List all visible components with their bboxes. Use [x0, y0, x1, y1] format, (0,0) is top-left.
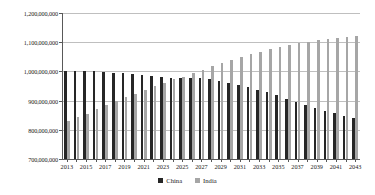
bar-india	[192, 73, 195, 159]
x-axis-tick-mark	[230, 159, 231, 162]
x-axis-tick-mark	[221, 159, 222, 162]
x-axis-tick-label: 2027	[195, 163, 207, 170]
bar-group	[129, 13, 139, 159]
x-axis-tick-mark	[336, 159, 337, 162]
bar-group	[225, 13, 235, 159]
x-axis-tick-mark	[96, 159, 97, 162]
x-axis-tick-label: 2043	[349, 163, 361, 170]
bar-india	[259, 52, 262, 159]
legend-item-china: China	[158, 177, 182, 184]
x-axis-tick-label: 2013	[61, 163, 73, 170]
x-axis-tick-mark	[269, 159, 270, 162]
legend-item-india: India	[195, 177, 217, 184]
x-axis-tick-mark	[192, 159, 193, 162]
bar-group	[139, 13, 149, 159]
x-axis-tick-mark	[201, 159, 202, 162]
x-axis-tick-mark	[67, 159, 68, 162]
bar-group	[62, 13, 72, 159]
x-axis-tick-mark	[278, 159, 279, 162]
bar-group	[110, 13, 120, 159]
bar-india	[163, 83, 166, 160]
bar-group	[283, 13, 293, 159]
bar-group	[177, 13, 187, 159]
bar-india	[67, 121, 70, 159]
x-axis-tick-mark	[307, 159, 308, 162]
bar-india	[288, 45, 291, 159]
bar-group	[216, 13, 226, 159]
x-axis-tick-mark	[124, 159, 125, 162]
bar-group	[254, 13, 264, 159]
bar-india	[144, 90, 147, 159]
x-axis-tick-mark	[288, 159, 289, 162]
bar-india	[86, 114, 89, 159]
x-axis-labels: 2013201520172019202120232025202720292031…	[62, 163, 360, 174]
x-axis-tick-mark	[144, 159, 145, 162]
x-axis-tick-label: 2017	[99, 163, 111, 170]
bar-india	[279, 47, 282, 159]
y-axis-tick-label: 800,000,000	[0, 126, 58, 133]
x-axis-tick-mark	[173, 159, 174, 162]
bar-india	[240, 57, 243, 159]
bar-group	[293, 13, 303, 159]
x-axis-tick-label: 2033	[253, 163, 265, 170]
bar-group	[235, 13, 245, 159]
bar-india	[346, 37, 349, 159]
legend-label-india: India	[203, 177, 217, 184]
bar-india	[317, 40, 320, 159]
bar-india	[327, 39, 330, 159]
bar-group	[302, 13, 312, 159]
bar-india	[202, 70, 205, 159]
x-axis-tick-mark	[346, 159, 347, 162]
bar-india	[269, 49, 272, 159]
x-axis-tick-label: 2037	[291, 163, 303, 170]
x-axis-tick-mark	[182, 159, 183, 162]
bar-group	[120, 13, 130, 159]
x-axis-tick-mark	[153, 159, 154, 162]
y-axis-tick-label: 900,000,000	[0, 97, 58, 104]
bar-group	[149, 13, 159, 159]
bar-india	[182, 77, 185, 159]
bar-india	[250, 54, 253, 159]
x-axis-tick-label: 2025	[176, 163, 188, 170]
x-axis-tick-label: 2039	[311, 163, 323, 170]
bar-group	[331, 13, 341, 159]
population-projection-bar-chart: 700,000,000800,000,000900,000,0001,000,0…	[0, 0, 375, 195]
x-axis-tick-label: 2015	[80, 163, 92, 170]
legend-label-china: China	[166, 177, 182, 184]
bar-group	[245, 13, 255, 159]
bar-group	[158, 13, 168, 159]
y-axis-tick-label: 1,100,000,000	[0, 39, 58, 46]
bar-india	[307, 42, 310, 159]
bar-india	[77, 117, 80, 159]
bar-group	[322, 13, 332, 159]
bar-india	[221, 63, 224, 159]
x-axis-tick-label: 2029	[214, 163, 226, 170]
bar-group	[100, 13, 110, 159]
y-axis-tick-label: 1,200,000,000	[0, 10, 58, 17]
x-axis-tick-mark	[240, 159, 241, 162]
bar-group	[350, 13, 360, 159]
x-axis-tick-mark	[115, 159, 116, 162]
x-axis-tick-mark	[163, 159, 164, 162]
bar-india	[134, 94, 137, 159]
x-axis-tick-mark	[76, 159, 77, 162]
legend-swatch-china-icon	[158, 178, 163, 183]
x-axis-tick-mark	[298, 159, 299, 162]
x-axis-tick-label: 2021	[138, 163, 150, 170]
x-axis-tick-mark	[326, 159, 327, 162]
x-axis-tick-label: 2019	[118, 163, 130, 170]
bar-group	[197, 13, 207, 159]
bar-india	[298, 43, 301, 159]
bar-india	[355, 36, 358, 159]
bar-series-container	[62, 13, 360, 159]
x-axis-tick-label: 2041	[330, 163, 342, 170]
bar-india	[115, 101, 118, 159]
bar-india	[211, 66, 214, 159]
bar-india	[230, 60, 233, 159]
bar-india	[125, 97, 128, 159]
bar-group	[72, 13, 82, 159]
bar-group	[206, 13, 216, 159]
x-axis-tick-mark	[317, 159, 318, 162]
bar-group	[273, 13, 283, 159]
x-axis-tick-mark	[105, 159, 106, 162]
